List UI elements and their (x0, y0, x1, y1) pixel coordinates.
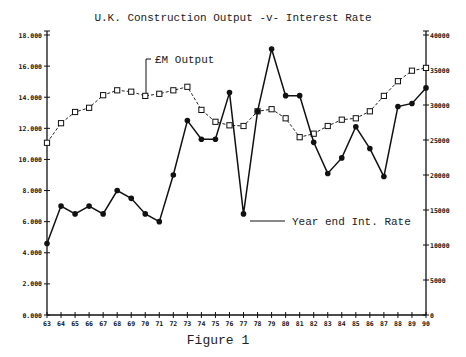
annotation-output-leader (146, 59, 151, 93)
x-axis-tick-label: 75 (212, 320, 220, 328)
left-axis-tick-label: 10.000 (19, 156, 43, 164)
interest-rate-marker (381, 174, 387, 180)
interest-rate-marker (353, 124, 359, 130)
x-axis-tick-label: 81 (296, 320, 304, 328)
output-marker (381, 93, 386, 98)
x-axis-tick-label: 70 (141, 320, 149, 328)
interest-rate-marker (339, 155, 345, 161)
interest-rate-marker (283, 93, 289, 99)
left-axis-tick-label: 2.000 (22, 280, 42, 288)
left-axis-tick-label: 4.000 (22, 249, 42, 257)
x-axis-tick-label: 86 (366, 320, 374, 328)
x-axis-tick-label: 77 (240, 320, 248, 328)
right-axis-tick-label: 25000 (430, 137, 450, 145)
interest-rate-marker (114, 188, 120, 194)
x-axis-tick-label: 74 (197, 320, 205, 328)
interest-rate-marker (409, 101, 415, 107)
output-marker (58, 121, 63, 126)
x-axis-tick-label: 80 (282, 320, 290, 328)
interest-rate-marker (255, 108, 261, 114)
x-axis-tick-label: 87 (380, 320, 388, 328)
interest-rate-marker (311, 140, 317, 146)
x-axis-tick-label: 90 (422, 320, 430, 328)
interest-rate-marker (128, 196, 134, 202)
output-marker (241, 123, 246, 128)
interest-rate-marker (86, 203, 92, 209)
x-axis: 6364656667686970717273747576777879808182… (43, 312, 430, 328)
interest-rate-marker (199, 136, 205, 142)
output-marker (129, 89, 134, 94)
interest-rate-marker (185, 118, 191, 124)
x-axis-tick-label: 69 (127, 320, 135, 328)
x-axis-tick-label: 65 (71, 320, 79, 328)
left-axis-tick-label: 18.000 (19, 32, 43, 40)
left-axis-tick-label: 0.000 (22, 312, 42, 320)
left-y-axis: 0.0002.0004.0006.0008.00010.00012.00014.… (19, 31, 50, 320)
output-marker (353, 116, 358, 121)
x-axis-tick-label: 83 (324, 320, 332, 328)
series-output-line (44, 65, 428, 145)
x-axis-tick-label: 68 (113, 320, 121, 328)
x-axis-tick-label: 78 (254, 320, 262, 328)
interest-rate-marker (100, 211, 106, 217)
right-axis-tick-label: 0 (430, 312, 434, 320)
output-marker (423, 65, 428, 70)
right-axis-tick-label: 5000 (430, 277, 446, 285)
right-axis-tick-label: 15000 (430, 207, 450, 215)
output-marker (199, 107, 204, 112)
annotation-output-label: £M Output (155, 54, 214, 66)
output-marker (157, 91, 162, 96)
interest-rate-marker (72, 211, 78, 217)
output-marker (87, 105, 92, 110)
interest-rate-marker (297, 93, 303, 99)
interest-rate-marker (171, 172, 177, 178)
output-marker (269, 107, 274, 112)
output-marker (325, 123, 330, 128)
right-axis-tick-label: 35000 (430, 67, 450, 75)
left-axis-tick-label: 8.000 (22, 187, 42, 195)
output-marker (115, 88, 120, 93)
output-marker (143, 93, 148, 98)
x-axis-tick-label: 66 (85, 320, 93, 328)
x-axis-tick-label: 79 (268, 320, 276, 328)
output-marker (283, 116, 288, 121)
interest-rate-marker (395, 104, 401, 110)
interest-rate-marker (213, 136, 219, 142)
interest-rate-marker (44, 241, 50, 247)
output-marker (44, 140, 49, 145)
output-polyline (47, 68, 426, 143)
interest-rate-marker (227, 90, 233, 96)
interest-rate-marker (367, 146, 373, 152)
left-axis-tick-label: 12.000 (19, 125, 43, 133)
right-y-axis: 0500010000150002000025000300003500040000 (423, 31, 450, 320)
output-marker (367, 109, 372, 114)
output-marker (395, 79, 400, 84)
output-marker (171, 88, 176, 93)
x-axis-tick-label: 82 (310, 320, 318, 328)
chart-title: U.K. Construction Output -v- Interest Ra… (94, 12, 371, 24)
annotation-rate-label: Year end Int. Rate (292, 216, 411, 228)
left-axis-tick-label: 16.000 (19, 63, 43, 71)
left-axis-tick-label: 14.000 (19, 94, 43, 102)
x-axis-tick-label: 63 (43, 320, 51, 328)
x-axis-tick-label: 88 (394, 320, 402, 328)
output-marker (297, 135, 302, 140)
interest-rate-marker (325, 171, 331, 177)
right-axis-tick-label: 10000 (430, 242, 450, 250)
output-marker (185, 84, 190, 89)
right-axis-tick-label: 40000 (430, 32, 450, 40)
interest-rate-marker (156, 219, 162, 225)
left-axis-tick-label: 6.000 (22, 218, 42, 226)
interest-rate-marker (142, 211, 148, 217)
annotation-rate: Year end Int. Rate (250, 216, 411, 228)
x-axis-tick-label: 85 (352, 320, 360, 328)
interest-rate-marker (269, 46, 275, 52)
right-axis-tick-label: 30000 (430, 102, 450, 110)
annotation-output: £M Output (146, 54, 214, 93)
x-axis-tick-label: 71 (155, 320, 163, 328)
x-axis-tick-label: 73 (183, 320, 191, 328)
x-axis-tick-label: 84 (338, 320, 346, 328)
interest-rate-marker (423, 85, 429, 91)
figure-caption: Figure 1 (187, 333, 250, 348)
output-marker (72, 109, 77, 114)
